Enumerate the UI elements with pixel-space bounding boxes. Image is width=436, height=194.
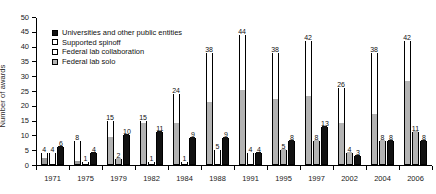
bar-value-label: 8 (290, 134, 294, 141)
bar[interactable]: 42 (305, 41, 312, 165)
cut-off-caption (0, 0, 436, 6)
bar[interactable]: 15 (107, 121, 114, 165)
legend-swatch-icon (52, 49, 58, 55)
bar[interactable]: 1 (82, 162, 89, 165)
y-tick-label: 35 (21, 58, 29, 66)
bar-segment-hatch (413, 131, 418, 164)
bar-value-label: 13 (321, 120, 329, 127)
bar[interactable]: 9 (222, 138, 229, 165)
y-tick-label: 45 (21, 29, 29, 37)
x-tick (69, 166, 70, 170)
bar-segment-white (215, 149, 220, 164)
bar[interactable]: 1 (181, 162, 188, 165)
bar[interactable]: 24 (173, 94, 180, 165)
bar[interactable]: 11 (156, 132, 163, 165)
x-tick (300, 166, 301, 170)
x-tick (168, 166, 169, 170)
bar-value-label: 4 (348, 146, 352, 153)
bar[interactable]: 5 (280, 150, 287, 165)
bar[interactable]: 8 (288, 141, 295, 165)
y-tick: 45 (32, 32, 36, 33)
bar[interactable]: 3 (354, 156, 361, 165)
bar[interactable]: 10 (123, 135, 130, 165)
bar-value-label: 3 (356, 149, 360, 156)
y-tick: 30 (32, 76, 36, 77)
y-axis-label: Number of awards (0, 65, 7, 128)
x-tick (267, 166, 268, 170)
bar-segment-solid (91, 152, 96, 164)
bar-segment-hatch (174, 123, 179, 164)
bar-value-label: 5 (216, 143, 220, 150)
legend-swatch-icon (52, 30, 58, 36)
bar[interactable]: 8 (387, 141, 394, 165)
bar[interactable]: 44 (239, 35, 246, 165)
bar[interactable]: 6 (57, 147, 64, 165)
bar-value-label: 42 (403, 34, 411, 41)
x-tick-label-2002: 2002 (341, 174, 358, 183)
bar[interactable]: 38 (272, 53, 279, 165)
bar-value-label: 9 (191, 131, 195, 138)
y-tick-label: 25 (21, 88, 29, 96)
bar[interactable]: 2 (115, 159, 122, 165)
y-axis-line (36, 18, 37, 166)
x-tick-label-2004: 2004 (374, 174, 391, 183)
y-tick: 40 (32, 47, 36, 48)
bar[interactable]: 4 (346, 153, 353, 165)
bar-value-label: 5 (282, 143, 286, 150)
legend-item: Federal lab collaboration (52, 47, 182, 57)
bar[interactable]: 4 (255, 153, 262, 165)
legend-item: Federal lab solo (52, 57, 182, 67)
bar[interactable]: 5 (214, 150, 221, 165)
bar-segment-white (339, 87, 344, 123)
bar-segment-hatch (380, 140, 385, 164)
bar-value-label: 26 (337, 81, 345, 88)
legend-swatch-icon (52, 59, 58, 65)
y-tick: 35 (32, 61, 36, 62)
x-tick-label-1982: 1982 (143, 174, 160, 183)
bar-segment-hatch (347, 152, 352, 164)
bar[interactable]: 11 (412, 132, 419, 165)
bar[interactable]: 26 (338, 88, 345, 165)
y-tick-label: 10 (21, 132, 29, 140)
bar[interactable]: 1 (148, 162, 155, 165)
bar[interactable]: 4 (90, 153, 97, 165)
bar-group-1988: 3859 (206, 18, 230, 165)
bar-segment-hatch (339, 123, 344, 164)
bar-value-label: 4 (257, 146, 261, 153)
y-tick-label: 50 (21, 14, 29, 22)
bar-group-2002: 2643 (338, 18, 362, 165)
x-tick-label-1995: 1995 (275, 174, 292, 183)
bar-value-label: 44 (238, 28, 246, 35)
x-tick (399, 166, 400, 170)
bar-group-2006: 42118 (404, 18, 428, 165)
bar[interactable]: 4 (247, 153, 254, 165)
bar[interactable]: 4 (41, 153, 48, 165)
bar-segment-hatch (108, 137, 113, 164)
bar-value-label: 4 (249, 146, 253, 153)
bar[interactable]: 42 (404, 41, 411, 165)
bar-segment-hatch (273, 99, 278, 164)
bar-segment-hatch (240, 90, 245, 164)
x-tick (366, 166, 367, 170)
bar[interactable]: 8 (379, 141, 386, 165)
bar-value-label: 1 (183, 155, 187, 162)
bar[interactable]: 9 (189, 138, 196, 165)
bar-group-2004: 3888 (371, 18, 395, 165)
bar-segment-hatch (141, 123, 146, 164)
bar-value-label: 8 (381, 134, 385, 141)
bar[interactable]: 8 (420, 141, 427, 165)
bar[interactable]: 15 (140, 121, 147, 165)
bar-segment-solid (421, 140, 426, 164)
bar-segment-hatch (306, 96, 311, 164)
bar-segment-solid (190, 137, 195, 164)
y-tick: 20 (32, 106, 36, 107)
bar-segment-white (306, 40, 311, 96)
bar-segment-white (75, 140, 80, 161)
x-tick (234, 166, 235, 170)
bar[interactable]: 4 (49, 153, 56, 165)
bar[interactable]: 8 (74, 141, 81, 165)
bar[interactable]: 38 (206, 53, 213, 165)
bar[interactable]: 13 (321, 127, 328, 165)
bar[interactable]: 38 (371, 53, 378, 165)
bar[interactable]: 8 (313, 141, 320, 165)
